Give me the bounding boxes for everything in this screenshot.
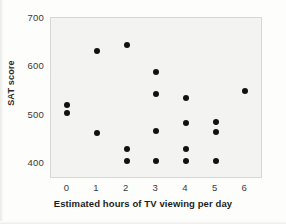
data-point (64, 102, 70, 108)
x-axis: 0123456 (0, 182, 286, 196)
data-point (213, 129, 219, 135)
data-point (183, 146, 189, 152)
x-axis-tick-label: 6 (233, 182, 255, 193)
data-point (64, 110, 70, 116)
data-point (183, 95, 189, 101)
scatter-plot-figure: 400500600700 SAT score 0123456 Estimated… (0, 0, 286, 224)
data-point (124, 158, 130, 164)
data-point (124, 146, 130, 152)
x-axis-tick-label: 5 (204, 182, 226, 193)
plot-area (50, 17, 262, 178)
data-point (94, 48, 100, 54)
data-point (94, 130, 100, 136)
data-point (213, 158, 219, 164)
x-axis-title: Estimated hours of TV viewing per day (0, 198, 286, 209)
data-point (213, 119, 219, 125)
y-axis-title: SAT score (6, 48, 16, 118)
data-point (153, 91, 159, 97)
data-point (124, 42, 130, 48)
y-axis-tick-label: 400 (4, 157, 44, 168)
data-points-layer (51, 18, 261, 177)
data-point (242, 88, 248, 94)
data-point (153, 158, 159, 164)
data-point (183, 158, 189, 164)
x-axis-tick-label: 0 (55, 182, 77, 193)
x-axis-tick-label: 1 (85, 182, 107, 193)
x-axis-tick-label: 2 (115, 182, 137, 193)
data-point (153, 69, 159, 75)
y-axis-tick-label: 700 (4, 12, 44, 23)
data-point (183, 120, 189, 126)
data-point (153, 128, 159, 134)
x-axis-tick-label: 3 (144, 182, 166, 193)
x-axis-tick-label: 4 (174, 182, 196, 193)
